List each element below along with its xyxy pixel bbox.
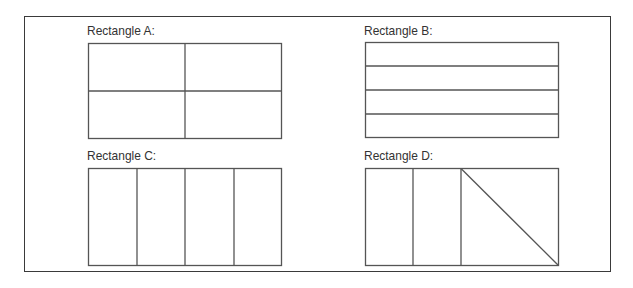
- rectangle-d-outline: [366, 169, 559, 266]
- rectangle-a-diagram: [88, 43, 283, 139]
- rectangle-d-diagram: [365, 168, 560, 266]
- rectangle-c-diagram: [88, 168, 283, 266]
- rectangle-d-diagonal: [461, 169, 559, 266]
- rectangle-c-label: Rectangle C:: [87, 148, 156, 163]
- rectangle-d-label: Rectangle D:: [364, 148, 433, 163]
- rectangle-b-diagram: [365, 42, 560, 139]
- rectangle-a-label: Rectangle A:: [87, 23, 155, 38]
- rectangle-b-label: Rectangle B:: [364, 23, 432, 38]
